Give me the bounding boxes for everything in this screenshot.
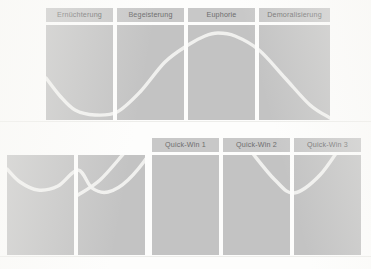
change-curve-figure: Ernüchterung Begeisterung Euphorie Demor… [0,0,371,269]
quickwin-panel-2 [152,155,219,255]
phase-panel-begeisterung [117,25,184,120]
quickwin-panel-1 [78,155,145,255]
top-baseline [0,121,371,122]
quickwin-panel-0 [7,155,74,255]
quickwin-label-1: Quick-Win 1 [152,138,219,152]
quickwin-panel-3 [223,155,290,255]
quickwin-label-3: Quick-Win 3 [294,138,361,152]
quickwin-curve-section: Quick-Win 1 Quick-Win 2 Quick-Win 3 [0,132,371,269]
phase-panel-demoralisierung [259,25,330,120]
quickwin-label-2: Quick-Win 2 [223,138,290,152]
bottom-baseline [0,256,371,257]
quickwin-panel-4 [294,155,361,255]
phase-panel-euphorie [188,25,255,120]
phase-label-begeisterung: Begeisterung [117,8,184,22]
phase-label-demoralisierung: Demoralisierung [259,8,330,22]
phase-curve-section: Ernüchterung Begeisterung Euphorie Demor… [0,0,371,132]
phase-label-ernuechterung: Ernüchterung [46,8,113,22]
phase-label-euphorie: Euphorie [188,8,255,22]
phase-panel-ernuechterung [46,25,113,120]
